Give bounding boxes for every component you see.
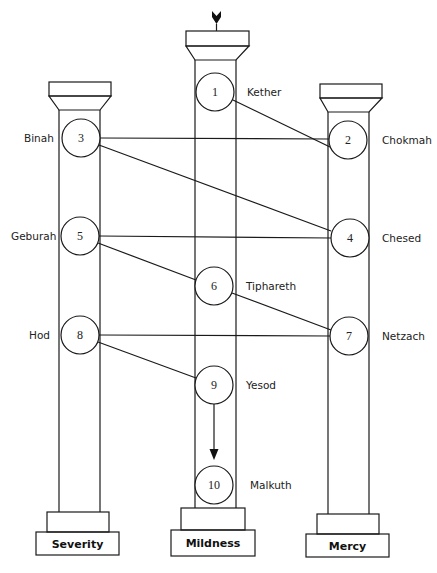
svg-text:8: 8 (77, 328, 83, 342)
path-3-2 (100, 138, 329, 139)
svg-text:5: 5 (77, 229, 83, 243)
sephira-label-tiphareth: Tiphareth (245, 280, 296, 292)
path-8-9 (98, 342, 196, 378)
center-capital-neck (186, 46, 249, 60)
right-base-step (317, 514, 379, 534)
path-6-7 (232, 293, 331, 330)
sephira-label-hod: Hod (29, 329, 50, 341)
pillar-label-severity: Severity (52, 538, 104, 551)
svg-text:1: 1 (212, 85, 218, 99)
sephira-label-yesod: Yesod (245, 379, 276, 391)
pillar-label-mercy: Mercy (329, 540, 367, 553)
sephira-label-chesed: Chesed (382, 232, 421, 244)
sephira-label-chokmah: Chokmah (382, 134, 432, 146)
descending-arrow-icon (212, 11, 221, 31)
right-capital-top (320, 84, 382, 98)
tree-of-life-diagram: Severity Mildness Mercy (0, 0, 437, 573)
arrowhead-icon (210, 449, 219, 460)
path-8-7 (99, 335, 330, 336)
sephira-10: 10 Malkuth (195, 466, 292, 504)
svg-text:2: 2 (345, 133, 351, 147)
sephira-7: 7 Netzach (330, 317, 425, 355)
svg-text:6: 6 (211, 279, 217, 293)
svg-text:9: 9 (211, 378, 217, 392)
sephira-label-kether: Kether (247, 86, 282, 98)
sephira-label-binah: Binah (24, 132, 54, 144)
left-capital-neck (49, 96, 111, 110)
sephira-label-netzach: Netzach (382, 330, 425, 342)
sephira-2: 2 Chokmah (329, 121, 432, 159)
center-capital-top (186, 31, 249, 46)
sephira-label-malkuth: Malkuth (250, 479, 292, 491)
center-base-step (181, 508, 245, 530)
svg-text:4: 4 (347, 231, 353, 245)
left-capital-top (49, 82, 111, 96)
path-1-2 (233, 100, 330, 147)
sephira-label-geburah: Geburah (11, 230, 56, 242)
left-base-step (47, 512, 109, 532)
path-5-4 (99, 236, 331, 238)
svg-text:10: 10 (208, 478, 220, 492)
right-capital-neck (320, 98, 382, 112)
sephira-1: 1 Kether (196, 73, 282, 111)
path-5-6 (98, 243, 196, 280)
sephira-6: 6 Tiphareth (195, 267, 296, 305)
sephira-4: 4 Chesed (331, 219, 421, 257)
sephira-8: 8 Hod (29, 316, 99, 354)
path-3-4 (99, 145, 331, 231)
svg-text:7: 7 (346, 329, 352, 343)
svg-text:3: 3 (78, 131, 84, 145)
sephira-5: 5 Geburah (11, 217, 99, 255)
pillar-label-mildness: Mildness (186, 537, 241, 550)
sephira-3: 3 Binah (24, 119, 100, 157)
